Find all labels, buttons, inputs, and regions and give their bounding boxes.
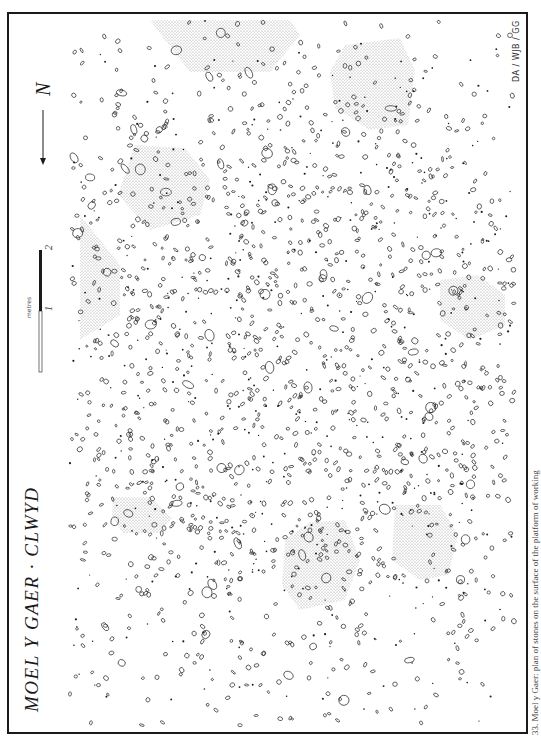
drafter-credit: DA / WJB / GG xyxy=(512,20,521,82)
north-arrow: N xyxy=(32,81,54,165)
stippled-area-top-right xyxy=(330,38,415,130)
scale-tick-2: 2 xyxy=(43,245,54,250)
stippled-area-top-center xyxy=(150,20,300,72)
site-plan: MOEL Y GAER · CLWYD N metres 1 2 DA / WJ… xyxy=(0,0,541,743)
stippled-area-left-upper-triangle xyxy=(80,215,120,340)
plan-frame xyxy=(8,13,527,733)
scale-tick-1: 1 xyxy=(43,306,54,311)
scale-bar-segment-light xyxy=(39,311,42,372)
stippled-areas xyxy=(80,20,505,610)
scale-bar: metres 1 2 xyxy=(25,245,54,372)
stippled-area-left-lower xyxy=(112,497,172,533)
figure-caption: 33. Moel y Gaer: plan of stones on the s… xyxy=(530,470,540,735)
north-label: N xyxy=(32,81,54,97)
scale-unit-label: metres xyxy=(25,297,32,318)
arrow-head-icon xyxy=(40,158,46,165)
stone-scatter xyxy=(68,20,517,727)
stippled-area-right-mid-oval xyxy=(440,275,505,340)
plan-title: MOEL Y GAER · CLWYD xyxy=(21,487,42,713)
scale-bar-segment-dark xyxy=(39,250,42,311)
